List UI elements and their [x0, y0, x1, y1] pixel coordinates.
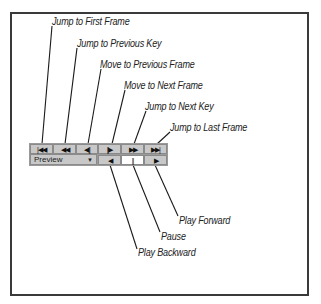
step-back-icon: ◀||: [84, 146, 90, 153]
pause-icon: ||: [132, 157, 134, 164]
jump-to-last-frame-button[interactable]: ▶▶|: [144, 144, 167, 154]
jump-to-first-frame-button[interactable]: |◀◀: [30, 144, 53, 154]
preview-dropdown-value: Preview: [34, 155, 62, 164]
skip-to-start-icon: |◀◀: [37, 146, 46, 153]
play-icon: ▶: [154, 157, 158, 164]
label-pause: Pause: [161, 230, 186, 242]
chevron-down-icon: ▼: [87, 157, 93, 163]
fast-forward-icon: ▶▶: [129, 146, 137, 153]
play-backward-button[interactable]: ◀: [98, 155, 121, 165]
preview-dropdown[interactable]: Preview ▼: [30, 154, 97, 165]
label-move-previous-frame: Move to Previous Frame: [100, 58, 195, 70]
move-to-previous-frame-button[interactable]: ◀||: [76, 144, 98, 154]
step-forward-icon: ||▶: [107, 146, 113, 153]
label-jump-next-key: Jump to Next Key: [145, 100, 214, 112]
jump-to-previous-key-button[interactable]: ◀◀: [53, 144, 76, 154]
label-jump-last-frame: Jump to Last Frame: [170, 121, 247, 133]
rewind-icon: ◀◀: [61, 146, 69, 153]
play-reverse-icon: ◀: [108, 157, 112, 164]
label-jump-first-frame: Jump to First Frame: [52, 15, 130, 27]
label-play-forward: Play Forward: [179, 214, 230, 226]
label-jump-previous-key: Jump to Previous Key: [77, 37, 161, 49]
play-forward-button[interactable]: ▶: [144, 155, 167, 165]
pause-button[interactable]: ||: [121, 155, 144, 165]
jump-to-next-key-button[interactable]: ▶▶: [121, 144, 144, 154]
skip-to-end-icon: ▶▶|: [151, 146, 160, 153]
move-to-next-frame-button[interactable]: ||▶: [98, 144, 121, 154]
label-move-next-frame: Move to Next Frame: [124, 79, 203, 91]
label-play-backward: Play Backward: [138, 246, 195, 258]
